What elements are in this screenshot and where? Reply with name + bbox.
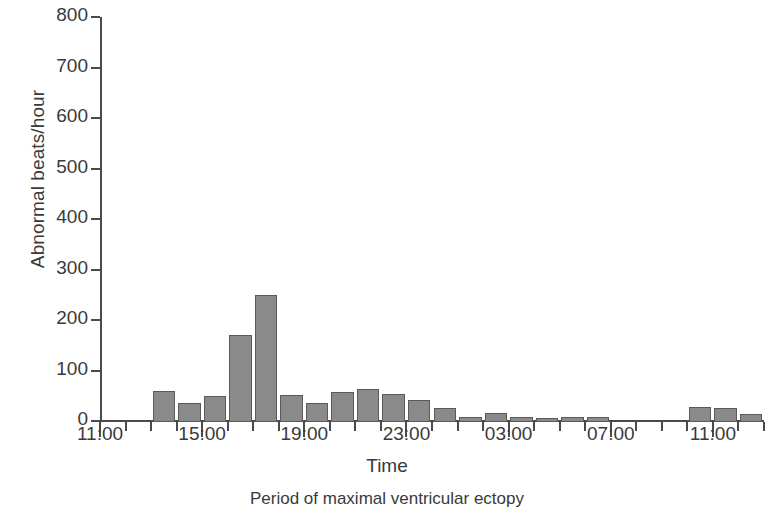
bar — [459, 417, 482, 422]
bar — [561, 417, 584, 422]
y-tick-label: 300 — [22, 257, 88, 279]
y-tick — [91, 67, 100, 69]
bar — [280, 395, 303, 422]
x-tick-label: 23:00 — [383, 423, 431, 445]
bar — [153, 391, 176, 422]
bar — [740, 414, 763, 422]
y-tick — [91, 370, 100, 372]
bar — [485, 413, 508, 422]
x-tick-minor — [559, 422, 561, 431]
y-tick-label: 100 — [22, 358, 88, 380]
x-tick-minor — [763, 422, 765, 431]
y-tick-label: 600 — [22, 105, 88, 127]
figure-caption: Period of maximal ventricular ectopy — [0, 489, 774, 509]
x-tick-label: 19:00 — [281, 423, 329, 445]
x-tick-minor — [457, 422, 459, 431]
bar — [689, 407, 712, 422]
y-tick — [91, 16, 100, 18]
x-tick-minor — [227, 422, 229, 431]
y-tick — [91, 319, 100, 321]
x-tick-minor — [737, 422, 739, 431]
bar — [382, 394, 405, 422]
plot-area: 0100200300400500600700800 — [100, 17, 764, 421]
x-tick-minor — [482, 422, 484, 431]
y-tick-label: 700 — [22, 55, 88, 77]
bar — [408, 400, 431, 422]
bar — [204, 396, 227, 422]
x-tick-minor — [278, 422, 280, 431]
x-tick-label: 03:00 — [485, 423, 533, 445]
x-tick-minor — [584, 422, 586, 431]
x-tick-minor — [252, 422, 254, 431]
y-tick — [91, 117, 100, 119]
x-tick-minor — [380, 422, 382, 431]
x-tick-minor — [431, 422, 433, 431]
bar — [536, 418, 559, 422]
bar — [229, 335, 252, 422]
x-tick-label: 11:00 — [77, 423, 123, 445]
x-tick-minor — [354, 422, 356, 431]
bar — [306, 403, 329, 422]
x-tick-minor — [150, 422, 152, 431]
bar — [178, 403, 201, 422]
bar — [714, 408, 737, 422]
x-tick-minor — [635, 422, 637, 431]
x-tick-minor — [661, 422, 663, 431]
y-axis-line — [100, 17, 102, 421]
ecg-ectopy-bar-chart: Abnormal beats/hour 01002003004005006007… — [0, 0, 774, 513]
y-tick — [91, 218, 100, 220]
y-tick — [91, 168, 100, 170]
x-tick-minor — [176, 422, 178, 431]
bar — [434, 408, 457, 422]
x-tick-minor — [686, 422, 688, 431]
x-tick-label: 15:00 — [178, 423, 226, 445]
y-tick-label: 200 — [22, 307, 88, 329]
bar — [255, 295, 278, 422]
x-axis-title: Time — [0, 455, 774, 477]
bar — [587, 417, 610, 422]
bar — [510, 417, 533, 422]
y-tick-label: 400 — [22, 206, 88, 228]
y-tick-label: 500 — [22, 156, 88, 178]
x-tick-label: 07:00 — [587, 423, 635, 445]
x-tick-minor — [125, 422, 127, 431]
x-tick-label: 11:00 — [690, 423, 736, 445]
y-tick — [91, 269, 100, 271]
x-tick-minor — [329, 422, 331, 431]
bar — [331, 392, 354, 422]
bar — [357, 389, 380, 422]
y-tick-label: 800 — [22, 4, 88, 26]
x-tick-minor — [533, 422, 535, 431]
